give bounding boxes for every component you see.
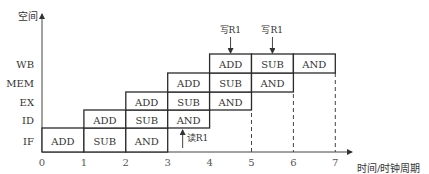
cell-label: AND: [259, 78, 284, 89]
cell-label: SUB: [177, 97, 200, 108]
cell-label: ADD: [134, 97, 158, 108]
pipeline-cell: ADD: [126, 92, 168, 110]
pipeline-cell: AND: [210, 92, 252, 110]
cell-label: ADD: [50, 136, 74, 147]
x-tick-1: 1: [81, 157, 87, 168]
stage-labels: IFIDEXMEMWB: [6, 59, 35, 147]
x-tick-2: 2: [123, 157, 129, 168]
cell-label: AND: [218, 97, 243, 108]
pipeline-cell: ADD: [168, 73, 210, 92]
pipeline-cell: ADD: [42, 128, 84, 152]
pipeline-cell: ADD: [210, 54, 252, 73]
annotation-write-r1: 写R1: [261, 25, 283, 53]
cell-label: ADD: [218, 59, 242, 70]
pipeline-cell: AND: [168, 110, 210, 128]
pipeline-cell: ADD: [84, 110, 126, 128]
cell-label: ADD: [176, 78, 200, 89]
annotation-label: 读R1: [187, 132, 209, 143]
stage-label-ex: EX: [20, 97, 35, 108]
pipeline-cell: AND: [126, 128, 168, 152]
x-tick-3: 3: [165, 157, 171, 168]
x-tick-7: 7: [332, 157, 338, 168]
stage-label-wb: WB: [16, 59, 34, 70]
annotation-read-r1: 读R1: [183, 130, 209, 148]
pipeline-diagram: 空间 时间/时钟周期 ADDSUBANDADDSUBANDADDSUBANDAD…: [0, 0, 429, 174]
cell-label: AND: [134, 136, 159, 147]
cell-label: SUB: [219, 78, 242, 89]
x-tick-labels: 01234567: [39, 157, 339, 168]
cell-label: ADD: [92, 115, 116, 126]
pipeline-cell: SUB: [252, 54, 294, 73]
pipeline-cell: SUB: [126, 110, 168, 128]
cell-label: AND: [176, 115, 201, 126]
x-tick-6: 6: [290, 157, 296, 168]
stage-label-mem: MEM: [6, 78, 34, 89]
annotation-write-r1: 写R1: [220, 25, 242, 53]
annotation-label: 写R1: [261, 25, 283, 35]
x-tick-5: 5: [248, 157, 254, 168]
cell-label: SUB: [135, 115, 158, 126]
x-axis-title: 时间/时钟周期: [357, 162, 420, 174]
annotation-label: 写R1: [220, 25, 242, 35]
pipeline-cell: SUB: [210, 73, 252, 92]
pipeline-cell: SUB: [168, 92, 210, 110]
cell-label: SUB: [261, 59, 284, 70]
pipeline-cell: AND: [293, 54, 335, 73]
cell-label: SUB: [94, 136, 117, 147]
y-axis-title: 空间: [18, 10, 38, 22]
x-tick-0: 0: [39, 157, 45, 168]
stage-label-if: IF: [23, 136, 34, 147]
pipeline-cell: AND: [252, 73, 294, 92]
x-tick-4: 4: [206, 157, 212, 168]
pipeline-cell: SUB: [84, 128, 126, 152]
cell-label: AND: [301, 59, 326, 70]
stage-label-id: ID: [22, 115, 34, 126]
